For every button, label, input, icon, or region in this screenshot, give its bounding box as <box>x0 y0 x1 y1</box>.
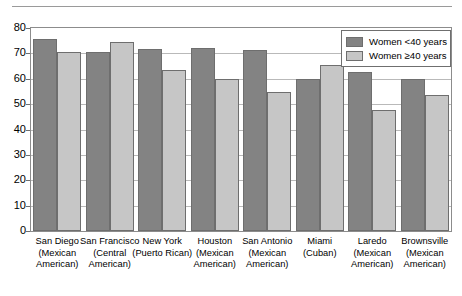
bar <box>86 52 110 231</box>
y-tick-label: 60 <box>0 73 26 84</box>
bar <box>267 92 291 231</box>
bar <box>110 42 134 231</box>
y-tick-label: 20 <box>0 174 26 185</box>
x-tick-label: Brownsville (Mexican American) <box>392 236 459 271</box>
bar <box>162 70 186 231</box>
legend-swatch-light-icon <box>346 51 363 61</box>
legend-item-women-under-40: Women <40 years <box>346 35 446 48</box>
bar <box>57 52 81 231</box>
bar <box>243 50 267 231</box>
bar <box>138 49 162 231</box>
bar <box>320 65 344 231</box>
y-tick-label: 40 <box>0 124 26 135</box>
legend-label-women-40-plus: Women ≥40 years <box>369 50 447 61</box>
bar <box>191 48 215 231</box>
bar <box>401 79 425 231</box>
bar <box>215 79 239 231</box>
bar <box>348 72 372 231</box>
y-tick-label: 30 <box>0 149 26 160</box>
top-divider-rule <box>12 6 452 7</box>
bar <box>372 110 396 231</box>
bar <box>296 79 320 231</box>
bar <box>425 95 449 231</box>
legend-label-women-under-40: Women <40 years <box>369 36 447 47</box>
y-tick-label: 10 <box>0 200 26 211</box>
bar <box>33 39 57 231</box>
legend-item-women-40-plus: Women ≥40 years <box>346 49 446 62</box>
chart-legend: Women <40 years Women ≥40 years <box>341 30 451 67</box>
y-tick-label: 0 <box>0 225 26 236</box>
y-tick-label: 80 <box>0 22 26 33</box>
y-tick-label: 70 <box>0 47 26 58</box>
legend-swatch-dark-icon <box>346 37 363 47</box>
y-tick-label: 50 <box>0 98 26 109</box>
bar-chart-figure: 01020304050607080 San Diego (Mexican Ame… <box>0 0 462 296</box>
